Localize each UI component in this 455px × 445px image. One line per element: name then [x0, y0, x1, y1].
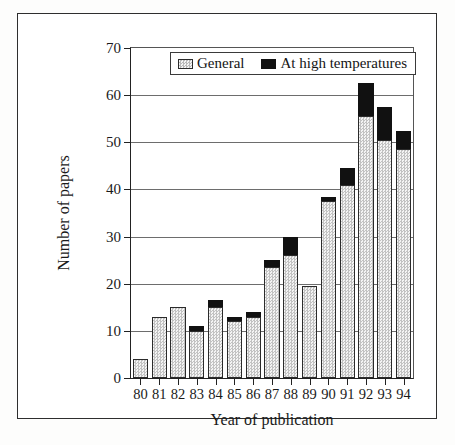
- bar-segment-general-90: [321, 201, 336, 378]
- bar-89: [302, 48, 317, 378]
- bar-92: [358, 48, 373, 378]
- legend-entry-high-temperatures: At high temperatures: [261, 56, 407, 71]
- bar-segment-high-temperatures-90: [321, 197, 336, 202]
- x-axis-label-85: 85: [227, 387, 242, 402]
- x-axis-label-92: 92: [359, 387, 374, 402]
- y-axis-tick-30: [124, 237, 131, 238]
- bar-segment-general-87: [264, 267, 279, 378]
- bar-85: [227, 48, 242, 378]
- x-axis-tick-80: [140, 378, 141, 385]
- bar-segment-high-temperatures-94: [396, 131, 411, 150]
- x-axis-tick-84: [216, 378, 217, 385]
- x-axis-title: Year of publication: [211, 411, 334, 429]
- x-axis-tick-86: [253, 378, 254, 385]
- x-axis-label-80: 80: [133, 387, 148, 402]
- bar-80: [133, 48, 148, 378]
- legend-swatch-general: [178, 59, 193, 69]
- bar-segment-general-93: [377, 140, 392, 378]
- bar-segment-high-temperatures-93: [377, 107, 392, 140]
- x-axis-tick-92: [366, 378, 367, 385]
- y-axis-tick-10: [124, 331, 131, 332]
- y-axis-tick-70: [124, 48, 131, 49]
- x-axis-tick-83: [197, 378, 198, 385]
- y-axis-label-10: 10: [106, 323, 121, 338]
- bar-segment-high-temperatures-91: [340, 168, 355, 185]
- x-axis-tick-91: [347, 378, 348, 385]
- bar-segment-general-92: [358, 116, 373, 378]
- x-axis-label-93: 93: [378, 387, 393, 402]
- bar-87: [264, 48, 279, 378]
- bar-93: [377, 48, 392, 378]
- legend-entry-general: General: [178, 56, 244, 71]
- y-axis-tick-50: [124, 142, 131, 143]
- y-axis-tick-0: [124, 378, 131, 379]
- bar-82: [170, 48, 185, 378]
- x-axis-tick-81: [159, 378, 160, 385]
- x-axis-label-81: 81: [152, 387, 167, 402]
- y-axis-tick-40: [124, 189, 131, 190]
- x-axis-tick-82: [178, 378, 179, 385]
- bar-84: [208, 48, 223, 378]
- bar-segment-high-temperatures-87: [264, 260, 279, 267]
- legend-swatch-high-temperatures: [261, 59, 276, 69]
- chart-legend: General At high temperatures: [170, 52, 416, 75]
- bar-91: [340, 48, 355, 378]
- bar-segment-general-82: [170, 307, 185, 378]
- x-axis-label-87: 87: [265, 387, 280, 402]
- bar-81: [152, 48, 167, 378]
- x-axis-tick-89: [310, 378, 311, 385]
- bar-94: [396, 48, 411, 378]
- x-axis-tick-94: [404, 378, 405, 385]
- bar-86: [246, 48, 261, 378]
- bar-segment-general-86: [246, 317, 261, 378]
- x-axis-tick-88: [291, 378, 292, 385]
- y-axis-title: Number of papers: [55, 155, 73, 271]
- x-axis-label-89: 89: [302, 387, 317, 402]
- bar-segment-high-temperatures-83: [189, 326, 204, 331]
- bar-segment-high-temperatures-85: [227, 317, 242, 322]
- y-axis-label-0: 0: [114, 371, 122, 386]
- x-axis-label-94: 94: [396, 387, 411, 402]
- x-axis-tick-87: [272, 378, 273, 385]
- y-axis-label-30: 30: [106, 229, 121, 244]
- y-axis-label-40: 40: [106, 182, 121, 197]
- y-axis-label-70: 70: [106, 41, 121, 56]
- bar-88: [283, 48, 298, 378]
- bar-segment-high-temperatures-92: [358, 83, 373, 116]
- bar-segment-general-85: [227, 321, 242, 378]
- x-axis-label-90: 90: [321, 387, 336, 402]
- bar-segment-general-84: [208, 307, 223, 378]
- y-axis-label-60: 60: [106, 88, 121, 103]
- figure-container: Number of papers Year of publication 010…: [0, 0, 455, 445]
- y-axis-label-20: 20: [106, 276, 121, 291]
- bar-segment-general-81: [152, 317, 167, 378]
- plot-area: 0102030405060708081828384858687888990919…: [130, 47, 414, 379]
- x-axis-label-83: 83: [190, 387, 205, 402]
- x-axis-label-91: 91: [340, 387, 355, 402]
- bar-segment-high-temperatures-84: [208, 300, 223, 307]
- x-axis-tick-90: [328, 378, 329, 385]
- figure-outer-border: Number of papers Year of publication 010…: [17, 13, 437, 419]
- y-axis-tick-60: [124, 95, 131, 96]
- bar-segment-high-temperatures-86: [246, 312, 261, 317]
- bar-segment-high-temperatures-88: [283, 237, 298, 256]
- x-axis-label-82: 82: [171, 387, 186, 402]
- x-axis-tick-85: [234, 378, 235, 385]
- y-axis-label-50: 50: [106, 135, 121, 150]
- y-axis-tick-20: [124, 284, 131, 285]
- x-axis-label-84: 84: [208, 387, 223, 402]
- x-axis-tick-93: [385, 378, 386, 385]
- bar-segment-general-94: [396, 149, 411, 378]
- bar-segment-general-80: [133, 359, 148, 378]
- bar-segment-general-89: [302, 286, 317, 378]
- x-axis-label-88: 88: [284, 387, 299, 402]
- legend-label-high-temperatures: At high temperatures: [280, 56, 407, 71]
- bar-83: [189, 48, 204, 378]
- bar-90: [321, 48, 336, 378]
- bar-segment-general-88: [283, 255, 298, 378]
- bar-segment-general-91: [340, 185, 355, 378]
- legend-label-general: General: [197, 56, 244, 71]
- bar-segment-general-83: [189, 331, 204, 378]
- x-axis-label-86: 86: [246, 387, 261, 402]
